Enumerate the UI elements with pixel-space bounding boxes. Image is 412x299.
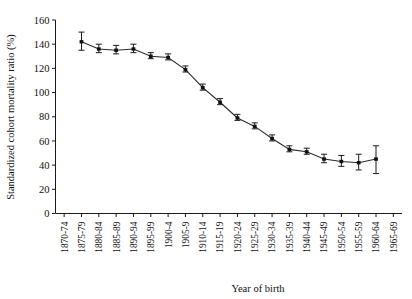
y-axis-ticks — [52, 20, 56, 214]
y-axis: 020406080100120140160 — [34, 15, 56, 220]
x-tick-label: 1905-9 — [181, 221, 191, 248]
x-axis-ticks — [64, 214, 393, 218]
y-tick-label: 140 — [34, 39, 50, 50]
data-point — [287, 148, 291, 151]
y-axis-tick-labels: 020406080100120140160 — [34, 15, 50, 220]
y-tick-label: 100 — [34, 87, 50, 98]
x-tick-label: 1955-59 — [354, 221, 364, 253]
x-tick-label: 1965-69 — [389, 221, 399, 253]
chart-container: 020406080100120140160 1870-741875-791880… — [0, 0, 412, 299]
data-point — [218, 101, 222, 104]
y-tick-label: 80 — [39, 111, 50, 122]
data-point — [184, 68, 188, 71]
y-tick-label: 40 — [39, 160, 50, 171]
y-tick-label: 60 — [39, 136, 50, 147]
cohort-mortality-line-chart: 020406080100120140160 1870-741875-791880… — [0, 0, 412, 299]
x-tick-label: 1930-34 — [267, 221, 277, 253]
y-tick-label: 120 — [34, 63, 50, 74]
data-point — [236, 116, 240, 119]
x-tick-label: 1920-24 — [233, 221, 243, 253]
x-axis: 1870-741875-791880-841885-891890-941895-… — [56, 214, 403, 253]
x-tick-label: 1870-74 — [60, 221, 70, 253]
y-tick-label: 160 — [34, 15, 50, 26]
data-point — [201, 86, 205, 89]
x-tick-label: 1900-4 — [164, 221, 174, 248]
data-series-group — [78, 32, 379, 173]
data-point — [374, 157, 378, 160]
data-point — [132, 47, 136, 50]
data-point-markers — [80, 40, 378, 164]
x-tick-label: 1890-94 — [129, 221, 139, 253]
y-axis-title: Standardized cohort mortality ratio (%) — [5, 34, 17, 200]
data-point — [149, 55, 153, 58]
y-tick-label: 0 — [44, 208, 49, 219]
series-line-path — [81, 42, 376, 163]
error-bars-group — [78, 32, 379, 173]
x-tick-label: 1945-49 — [319, 221, 329, 253]
x-tick-label: 1895-99 — [146, 221, 156, 253]
data-point — [322, 157, 326, 160]
data-point — [253, 125, 257, 128]
x-tick-label: 1885-89 — [112, 221, 122, 253]
x-tick-label: 1910-14 — [198, 221, 208, 253]
x-tick-label: 1915-19 — [215, 221, 225, 253]
data-point — [114, 49, 118, 52]
x-tick-label: 1880-84 — [94, 221, 104, 253]
x-tick-label: 1950-54 — [337, 221, 347, 253]
x-axis-tick-labels: 1870-741875-791880-841885-891890-941895-… — [60, 221, 399, 253]
x-tick-label: 1960-64 — [371, 221, 381, 253]
x-tick-label: 1935-39 — [285, 221, 295, 253]
data-point — [166, 56, 170, 59]
x-tick-label: 1940-44 — [302, 221, 312, 253]
x-axis-title: Year of birth — [231, 283, 285, 294]
data-point — [305, 150, 309, 153]
x-tick-label: 1925-29 — [250, 221, 260, 253]
data-point — [357, 161, 361, 164]
data-point — [97, 47, 101, 50]
x-tick-label: 1875-79 — [77, 221, 87, 253]
data-point — [270, 137, 274, 140]
y-tick-label: 20 — [39, 184, 50, 195]
data-point — [80, 40, 84, 43]
data-point — [339, 160, 343, 163]
